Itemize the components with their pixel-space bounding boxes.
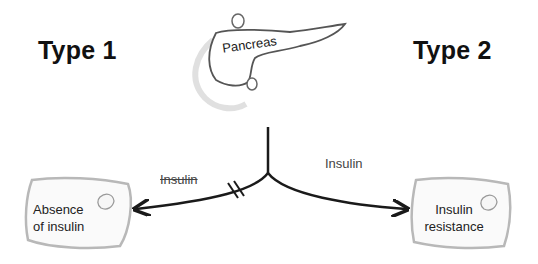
diabetes-diagram: Type 1 Type 2 Pancreas Insulin Insulin A… [0,0,538,264]
outcome-right-line-1: Insulin [419,201,489,218]
outcome-left-text: Absence of insulin [33,201,84,235]
outcome-left-line-1: Absence [33,201,84,218]
bubble-icon [98,194,114,209]
heading-type-2: Type 2 [413,36,492,65]
outcome-left-line-2: of insulin [33,218,84,235]
left-branch-label: Insulin [160,172,198,187]
right-arrow [268,173,406,209]
heading-type-1: Type 1 [38,36,117,65]
outcome-right-line-2: resistance [419,218,489,235]
right-branch-label: Insulin [325,156,363,171]
pancreas-icon [195,14,345,108]
left-arrow [136,173,268,209]
outcome-right-text: Insulin resistance [419,201,489,235]
